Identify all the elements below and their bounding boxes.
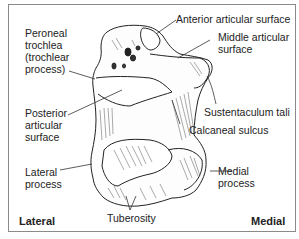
- label-lateral-process-line2: process: [25, 178, 62, 190]
- leader-lateral-process: [60, 164, 92, 170]
- label-anterior-articular-surface: Anterior articular surface: [176, 13, 290, 25]
- label-lateral-process-line1: Lateral: [25, 166, 57, 178]
- leader-peroneal-trochlea: [69, 71, 95, 79]
- label-calcaneal-sulcus: Calcaneal sulcus: [189, 124, 268, 136]
- label-sustentaculum-tali: Sustentaculum tali: [204, 106, 290, 118]
- orientation-medial: Medial: [251, 215, 285, 227]
- leader-anterior-articular: [156, 20, 176, 34]
- label-posterior-articular-surface-line1: Posterior: [25, 107, 67, 119]
- label-peroneal-trochlea-line2: trochlea: [25, 39, 62, 51]
- orientation-lateral: Lateral: [19, 215, 55, 227]
- label-peroneal-trochlea-line3: (trochlear: [25, 51, 69, 63]
- leader-sustentaculum-tali: [207, 76, 216, 104]
- label-middle-articular-surface-line2: surface: [218, 43, 252, 55]
- label-peroneal-trochlea-line4: process): [25, 63, 65, 75]
- label-posterior-articular-surface-line3: surface: [25, 131, 59, 143]
- label-medial-process-line1: Medial: [218, 165, 249, 177]
- label-tuberosity: Tuberosity: [107, 212, 156, 224]
- label-peroneal-trochlea-line1: Peroneal: [25, 27, 67, 39]
- leader-middle-articular: [178, 40, 210, 58]
- label-medial-process-line2: process: [218, 177, 255, 189]
- label-posterior-articular-surface-line2: articular: [25, 119, 62, 131]
- label-middle-articular-surface-line1: Middle articular: [218, 31, 289, 43]
